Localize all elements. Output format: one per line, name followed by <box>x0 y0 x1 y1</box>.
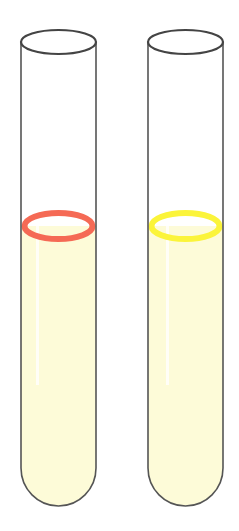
glass-highlight-left <box>36 215 39 385</box>
test-tube-left <box>21 30 96 506</box>
test-tube-diagram <box>0 0 239 531</box>
tube-mouth-right <box>148 30 223 54</box>
glass-highlight-right <box>166 215 169 385</box>
liquid-right <box>148 226 223 506</box>
tube-mouth-left <box>21 30 96 54</box>
test-tube-right <box>148 30 223 506</box>
liquid-left <box>21 226 96 506</box>
